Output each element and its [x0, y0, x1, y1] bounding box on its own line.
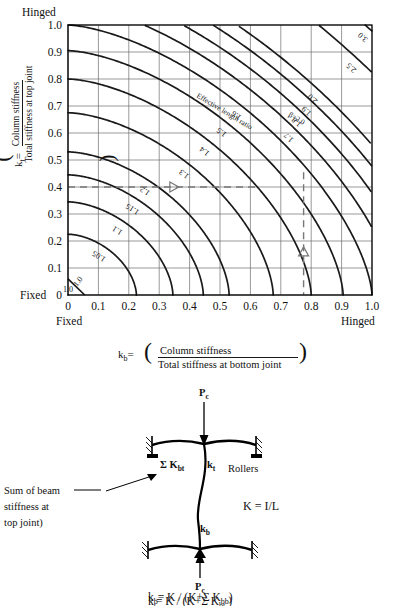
svg-text:Total stiffness at top joint: Total stiffness at top joint: [24, 65, 34, 162]
contour-curve: [365, 25, 371, 31]
column-frame-diagram: Pc: [0, 380, 403, 606]
contour-curve: [68, 152, 229, 295]
top-load-label: Pc: [199, 387, 209, 401]
figure-root: Hinged Fixed Fixed Hinged 00.10.20.30.40…: [0, 0, 403, 606]
x-paren-close: ): [299, 338, 307, 364]
x-tick-label: 0.6: [243, 300, 258, 312]
contour-label: 1.05: [91, 249, 108, 264]
x-tick-label: 0.7: [274, 300, 289, 312]
x-paren-open: (: [144, 338, 152, 364]
y-tick-label: 0: [56, 289, 62, 301]
contour-label: 1.15: [124, 202, 141, 217]
contour-curve: [239, 27, 370, 143]
callout-text-line1: Sum of beam: [4, 485, 60, 496]
contour-label: 2.0: [306, 92, 319, 105]
construction-lines: [68, 172, 309, 295]
kt-diagram-label: kt: [207, 459, 216, 473]
top-left-support: [146, 436, 158, 458]
x-tick-label: 0.5: [213, 300, 228, 312]
y-tick-label: 0.2: [48, 235, 63, 247]
sum-beam-stiffness-top-label: Σ Kbt: [160, 459, 185, 473]
x-axis-title: kb= ( ) Column stiffness Total stiffness…: [118, 338, 307, 370]
x-tick-label: 0.2: [122, 300, 137, 312]
y-tick-label: 0.7: [48, 100, 63, 112]
bottom-left-support: [142, 541, 148, 559]
x-tick-label: 0.3: [152, 300, 167, 312]
svg-text:Column stiffness: Column stiffness: [11, 81, 21, 146]
callout-text-line3: top joint): [4, 517, 43, 529]
callout-text-line2: stiffness at: [4, 501, 49, 512]
callout-leader-line: [106, 475, 155, 491]
contour-curve: [68, 175, 203, 295]
y-axis-top-label: Hinged: [22, 6, 56, 19]
y-tick-label: 0.8: [48, 73, 63, 85]
effective-length-ratio-chart: Hinged Fixed Fixed Hinged 00.10.20.30.40…: [0, 0, 403, 380]
contour-label: 1.1: [111, 224, 124, 237]
y-tick-label: 0.6: [48, 127, 63, 139]
contour-label: 1.3: [177, 168, 190, 181]
top-right-roller-support: [251, 436, 262, 458]
x-tick-label: 0.4: [182, 300, 197, 312]
contour-label: 3.0: [356, 31, 369, 44]
y-tick-label: 0.4: [48, 181, 63, 193]
svg-text:Total stiffness at bottom join: Total stiffness at bottom joint: [158, 359, 281, 370]
contour-curve: [214, 26, 372, 166]
svg-text:Column stiffness: Column stiffness: [160, 345, 231, 356]
x-tick-label: 1.0: [365, 300, 380, 312]
contour-label: 1.4: [198, 145, 211, 158]
y-tick-label: 0.1: [48, 262, 63, 274]
x-axis-left-label: Fixed: [56, 315, 82, 327]
stiffness-definition-label: K = I/L: [243, 499, 279, 513]
y-tick-label: 0.3: [48, 208, 63, 220]
effective-length-ratio-annotation: Effective length ratio: [195, 91, 254, 132]
y-tick-label: 1.0: [48, 19, 63, 31]
x-tick-label: 0.8: [304, 300, 319, 312]
y-axis-bottom-label: Fixed: [20, 289, 46, 301]
kb-diagram-label: kb: [200, 523, 210, 537]
y-tick-label: 0.5: [48, 154, 63, 166]
y-tick-label: 0.9: [48, 46, 63, 58]
y-paren-close: ): [94, 154, 119, 161]
x-tick-label: 0: [65, 300, 71, 312]
formula-kb: kb= K / (K+Σ Kbb): [148, 591, 233, 606]
contour-label: 1.5: [215, 126, 228, 139]
bottom-right-support: [252, 541, 258, 559]
rollers-label: Rollers: [228, 463, 258, 474]
x-tick-label: 0.1: [91, 300, 106, 312]
x-axis-right-label: Hinged: [341, 315, 375, 328]
contour-label: 2.5: [345, 61, 358, 74]
formula-kb-wrap: kb= K / (K+Σ Kbb): [0, 588, 403, 606]
y-paren-open: (: [0, 154, 14, 161]
svg-text:kb=: kb=: [118, 348, 134, 363]
x-tick-label: 0.9: [334, 300, 349, 312]
contour-label-origin: 1.0: [71, 275, 84, 288]
